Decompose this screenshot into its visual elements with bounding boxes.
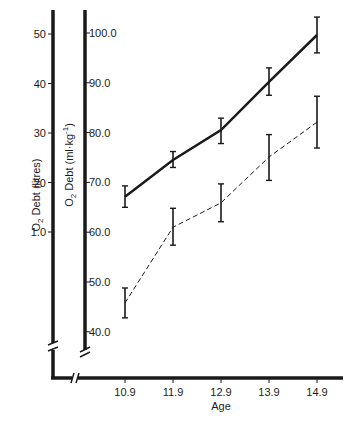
- x-tick-label: 11.9: [163, 386, 184, 398]
- right-y-tick-label: 50.0: [89, 276, 110, 288]
- left-y-tick-label: 40: [34, 78, 46, 90]
- left-y-tick-label: 30: [34, 127, 46, 139]
- series-solid: [122, 17, 320, 207]
- x-ticks: 10.911.912.913.914.9: [114, 378, 327, 398]
- axis-break-mark: [80, 352, 90, 357]
- left-y-tick-label: 50: [34, 28, 46, 40]
- chart-svg: 1.020304050 O2 Debt (litres) 40.050.060.…: [0, 0, 352, 425]
- x-tick-label: 14.9: [306, 386, 327, 398]
- right-y-tick-label: 80.0: [89, 127, 110, 139]
- right-y-ticks: 40.050.060.070.080.090.0100.0: [85, 27, 117, 338]
- series-line: [125, 35, 317, 197]
- error-bar: [266, 68, 272, 95]
- error-bar: [314, 96, 320, 148]
- x-axis: 10.911.912.913.914.9 Age: [51, 373, 343, 412]
- right-y-tick-label: 70.0: [89, 176, 110, 188]
- right-y-tick-label: 100.0: [89, 27, 117, 39]
- right-y-tick-label: 60.0: [89, 226, 110, 238]
- error-bar: [314, 17, 320, 53]
- data-series: [122, 17, 320, 318]
- x-tick-label: 12.9: [210, 386, 231, 398]
- error-bar: [218, 184, 224, 222]
- left-y-axis-title: O2 Debt (litres): [30, 159, 45, 232]
- right-y-axis: 40.050.060.070.080.090.0100.0 O2 Debt (m…: [61, 10, 117, 357]
- x-tick-label: 13.9: [258, 386, 279, 398]
- error-bar: [122, 288, 128, 318]
- right-y-tick-label: 40.0: [89, 326, 110, 338]
- error-bar: [266, 135, 272, 181]
- x-axis-title: Age: [211, 400, 231, 412]
- right-y-tick-label: 90.0: [89, 77, 110, 89]
- x-tick-label: 10.9: [114, 386, 135, 398]
- right-y-axis-title: O2 Debt (ml·kg-1): [61, 123, 78, 207]
- error-bar: [170, 208, 176, 245]
- chart-container: 1.020304050 O2 Debt (litres) 40.050.060.…: [0, 0, 352, 425]
- left-y-axis: 1.020304050 O2 Debt (litres): [30, 10, 58, 379]
